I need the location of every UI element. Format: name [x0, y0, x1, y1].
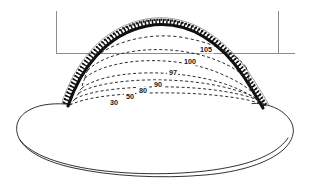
contour-label-100: 100 [184, 57, 196, 66]
contour-path-80 [79, 80, 261, 102]
contour-path-50 [75, 87, 264, 104]
contour-label-group: 80 [137, 86, 148, 95]
contour-label-group: 30 [108, 98, 119, 107]
contour-label-97: 97 [169, 68, 177, 77]
contour-label-group: 90 [152, 80, 163, 89]
contour-label-80: 80 [139, 86, 147, 95]
contour-label-50: 50 [126, 92, 134, 101]
figure-canvas: 105 100 97 90 80 50 [0, 0, 316, 185]
contour-label-group: 50 [124, 92, 135, 101]
contour-label-30: 30 [110, 98, 118, 107]
contour-map-figure: 105 100 97 90 80 50 [0, 0, 316, 185]
contour-label-105: 105 [200, 45, 212, 54]
contour-path-30 [70, 93, 267, 107]
contour-label-90: 90 [154, 80, 162, 89]
reference-grid [56, 11, 295, 54]
deposit-outer-boundary [17, 103, 294, 176]
contour-label-group: 97 [167, 68, 178, 77]
contour-label-group: 105 [199, 45, 214, 54]
contour-label-group: 100 [183, 57, 198, 66]
